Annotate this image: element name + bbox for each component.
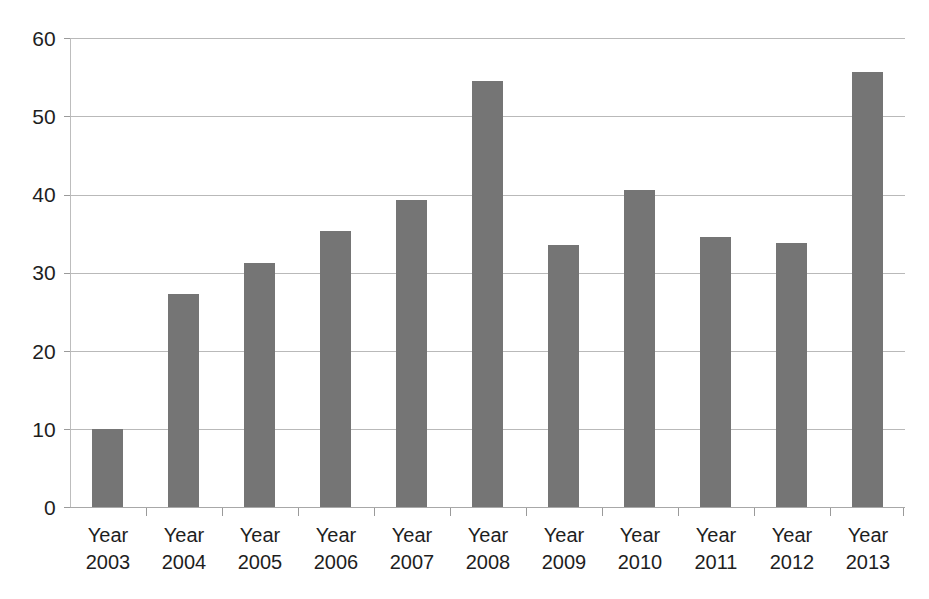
x-axis-label-year-2004: Year 2004: [146, 522, 222, 576]
x-axis-label-line2: 2006: [298, 549, 374, 576]
x-axis-label-year-2010: Year 2010: [602, 522, 678, 576]
x-axis-label-year-2003: Year 2003: [70, 522, 146, 576]
x-axis-label-line2: 2013: [830, 549, 906, 576]
x-axis-label-year-2007: Year 2007: [374, 522, 450, 576]
x-axis-label-year-2008: Year 2008: [450, 522, 526, 576]
x-axis-label-line1: Year: [678, 522, 754, 549]
x-axis-label-line2: 2005: [222, 549, 298, 576]
x-axis-label-year-2011: Year 2011: [678, 522, 754, 576]
x-axis-label-line1: Year: [450, 522, 526, 549]
x-axis-label-line2: 2010: [602, 549, 678, 576]
x-axis-label-year-2009: Year 2009: [526, 522, 602, 576]
x-axis-label-line1: Year: [374, 522, 450, 549]
x-axis-label-year-2005: Year 2005: [222, 522, 298, 576]
x-axis-label-line1: Year: [754, 522, 830, 549]
x-axis-label-year-2012: Year 2012: [754, 522, 830, 576]
x-axis-label-line1: Year: [602, 522, 678, 549]
x-axis-label-line2: 2009: [526, 549, 602, 576]
x-axis-label-line2: 2007: [374, 549, 450, 576]
x-axis-label-line1: Year: [830, 522, 906, 549]
x-axis-label-line2: 2004: [146, 549, 222, 576]
x-axis-label-line2: 2011: [678, 549, 754, 576]
x-axis-label-line2: 2003: [70, 549, 146, 576]
x-axis-label-year-2013: Year 2013: [830, 522, 906, 576]
x-axis-label-line1: Year: [222, 522, 298, 549]
x-axis-labels: Year 2003 Year 2004 Year 2005 Year 2006 …: [0, 0, 929, 599]
x-axis-label-line2: 2008: [450, 549, 526, 576]
x-axis-label-line1: Year: [526, 522, 602, 549]
x-axis-label-year-2006: Year 2006: [298, 522, 374, 576]
bar-chart: 60 50 40 30 20 10 0: [0, 0, 929, 599]
x-axis-label-line1: Year: [146, 522, 222, 549]
x-axis-label-line1: Year: [298, 522, 374, 549]
x-axis-label-line2: 2012: [754, 549, 830, 576]
x-axis-label-line1: Year: [70, 522, 146, 549]
